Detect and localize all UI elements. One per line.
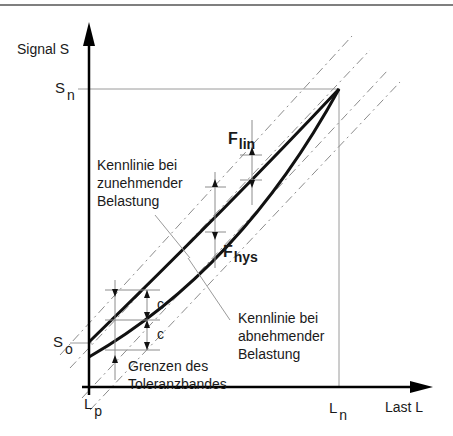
tick-so: So	[53, 334, 73, 349]
tolerance-band-lines	[60, 36, 400, 410]
tick-ln: Ln	[329, 400, 347, 415]
increasing-curve-label: Kennlinie bei zunehmender Belastung	[97, 156, 183, 210]
decreasing-curve-label: Kennlinie bei abnehmender Belastung	[238, 309, 324, 363]
tolerance-arrow-bottom-icon	[112, 355, 118, 363]
c-label-lower: c	[157, 327, 164, 341]
c-arrow-1-icon	[144, 290, 150, 298]
c-label-upper: c	[157, 297, 164, 311]
f-hys-label: Fhys	[223, 244, 258, 260]
hysteresis-diagram: Signal S Last L Sn So Lp Ln Flin Fhys c …	[0, 0, 453, 436]
tolerance-band-label: Grenzen des Toleranzbandes	[128, 357, 227, 393]
x-axis-label: Last L	[385, 400, 423, 414]
tick-sn: Sn	[55, 80, 75, 95]
f-hys-arrow-bottom-icon	[212, 232, 218, 240]
decreasing-label-leader	[188, 258, 230, 320]
y-axis-label: Signal S	[17, 42, 69, 56]
f-lin-label: Flin	[228, 131, 255, 147]
y-axis-arrow-icon	[83, 22, 95, 46]
increasing-label-leader	[155, 215, 190, 258]
x-axis-arrow-icon	[410, 381, 433, 393]
c-arrow-4-icon	[144, 342, 150, 350]
tick-lp: Lp	[84, 396, 102, 411]
